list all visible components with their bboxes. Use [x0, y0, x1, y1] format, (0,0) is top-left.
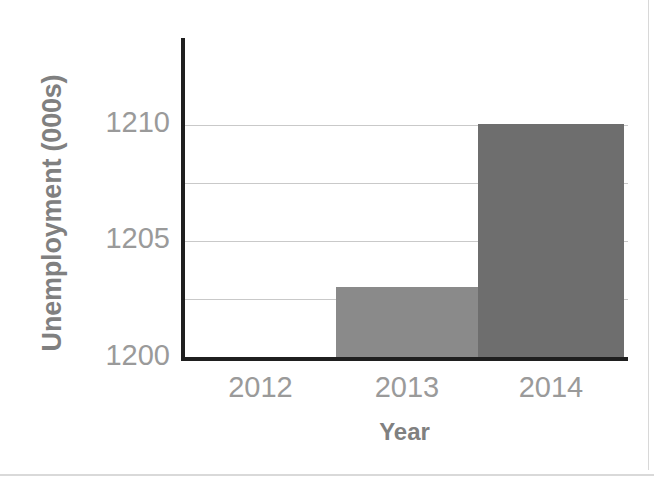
plot-area	[181, 38, 628, 361]
y-tick-label-1210: 1210	[70, 108, 170, 137]
x-axis-line	[181, 357, 628, 361]
x-tick-label-2014: 2014	[478, 370, 624, 405]
y-tick-label-1200: 1200	[70, 341, 170, 370]
x-tick-label-2013: 2013	[336, 370, 478, 405]
bar-chart-figure: Unemployment (000s) 1210 1205 1200 2012 …	[0, 0, 654, 488]
x-tick-label-2012: 2012	[185, 370, 336, 405]
y-tick-label-1205: 1205	[70, 224, 170, 253]
y-axis-line	[181, 38, 185, 361]
x-axis-title: Year	[181, 418, 628, 446]
y-axis-tick-labels: 1210 1205 1200	[70, 0, 170, 488]
page-border-right	[648, 0, 649, 470]
x-axis-tick-labels: 2012 2013 2014	[181, 370, 628, 414]
bar-2013[interactable]	[336, 287, 478, 357]
y-axis-title: Unemployment (000s)	[35, 48, 69, 378]
bar-2014[interactable]	[478, 124, 624, 357]
